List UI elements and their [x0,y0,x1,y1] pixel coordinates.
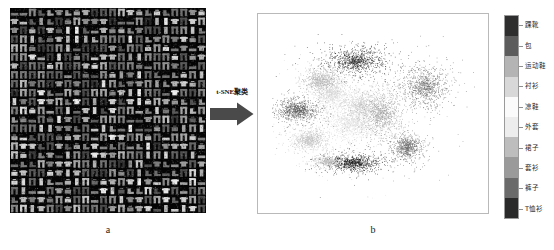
fashion-mnist-grid-image [10,8,206,213]
legend-tick [519,148,523,149]
legend-tick [519,107,523,108]
legend-item-label: 外套 [525,123,554,131]
tsne-arrow-label: t-SNE聚类 [206,88,258,97]
legend-tick [519,168,523,169]
legend-item-label: 衬衫 [525,82,554,90]
legend-item-label: 裙子 [525,144,554,152]
legend-item-label: 包 [525,42,554,50]
legend-color-swatch [505,198,518,218]
legend-tick [519,209,523,210]
legend-color-swatch [505,178,518,198]
legend-color-swatch [505,77,518,97]
legend-color-swatch [505,137,518,157]
tsne-scatter-canvas [258,14,488,213]
legend-tick [519,188,523,189]
legend-color-swatch [505,36,518,56]
panel-a-sample-grid [10,8,206,213]
legend-item-label: 套衫 [525,164,554,172]
legend-color-swatch [505,157,518,177]
legend-item-label: 裤子 [525,184,554,192]
legend-tick [519,127,523,128]
legend-label-list: 踝靴包运动鞋衬衫凉鞋外套裙子套衫裤子T恤衫 [525,15,554,219]
panel-a-caption: a [0,224,216,236]
legend: 踝靴包运动鞋衬衫凉鞋外套裙子套衫裤子T恤衫 [504,15,554,219]
legend-item-label: 运动鞋 [525,62,554,70]
legend-item-label: T恤衫 [525,205,554,213]
legend-item-label: 踝靴 [525,21,554,29]
legend-tick [519,86,523,87]
tsne-arrow-group: t-SNE聚类 [206,88,258,136]
legend-tick [519,66,523,67]
legend-tick [519,25,523,26]
panel-b-tsne-scatter [257,13,489,214]
legend-colorbar [504,15,519,219]
panel-b-caption: b [257,224,489,236]
legend-tick-marks [519,15,524,219]
legend-color-swatch [505,97,518,117]
legend-color-swatch [505,117,518,137]
legend-item-label: 凉鞋 [525,103,554,111]
legend-color-swatch [505,16,518,36]
legend-color-swatch [505,56,518,76]
right-arrow-icon [210,102,254,126]
legend-tick [519,46,523,47]
